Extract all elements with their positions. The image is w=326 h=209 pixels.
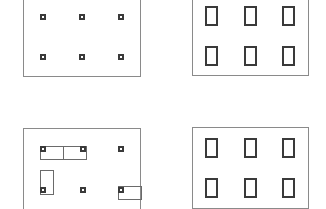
- marker-square: [40, 54, 46, 60]
- marker-square: [80, 146, 86, 152]
- marker-square: [79, 54, 85, 60]
- panel-bottom-left: [23, 128, 141, 209]
- panel-bottom-right: [192, 127, 309, 209]
- cell-rectangle: [282, 178, 295, 198]
- cell-rectangle: [244, 6, 257, 26]
- cell-rectangle: [205, 46, 218, 66]
- cell-rectangle: [244, 46, 257, 66]
- marker-square: [118, 54, 124, 60]
- cell-rectangle: [244, 138, 257, 158]
- marker-square: [80, 187, 86, 193]
- cell-rectangle: [282, 138, 295, 158]
- cell-rectangle: [282, 6, 295, 26]
- marker-square: [40, 14, 46, 20]
- marker-square: [118, 14, 124, 20]
- marker-square: [40, 146, 46, 152]
- panel-top-right: [192, 0, 309, 76]
- panel-top-left: [23, 0, 141, 77]
- marker-square: [40, 187, 46, 193]
- cell-rectangle: [205, 6, 218, 26]
- cell-rectangle: [282, 46, 295, 66]
- marker-square: [118, 187, 124, 193]
- marker-square: [79, 14, 85, 20]
- marker-square: [118, 146, 124, 152]
- cell-rectangle: [244, 178, 257, 198]
- cell-rectangle: [205, 178, 218, 198]
- cell-rectangle: [205, 138, 218, 158]
